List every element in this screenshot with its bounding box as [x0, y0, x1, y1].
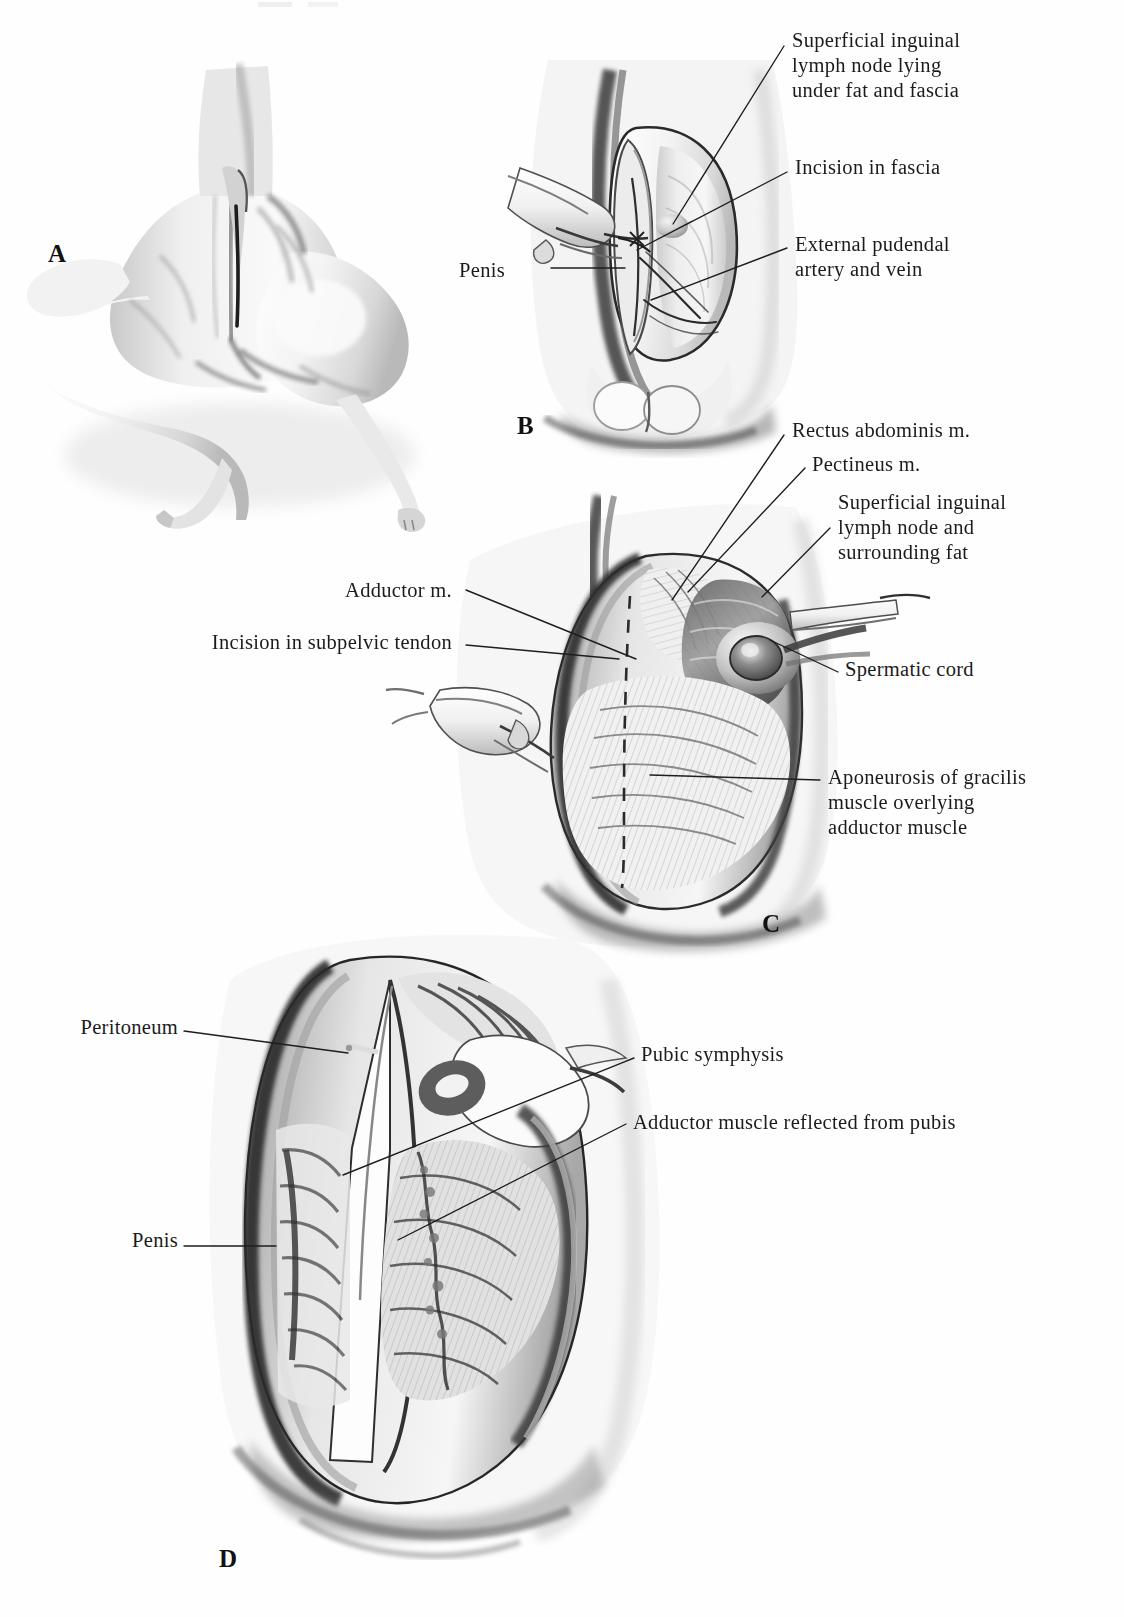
label-line: lymph node lying [792, 53, 960, 78]
label-line: Peritoneum [80, 1015, 178, 1040]
label-adductor-m: Adductor m. [345, 578, 452, 603]
label-line: surrounding fat [838, 540, 1006, 565]
label-peritoneum: Peritoneum [80, 1015, 178, 1040]
label-line: lymph node and [838, 515, 1006, 540]
label-pubic-symphysis: Pubic symphysis [641, 1042, 784, 1067]
panel-letter-b: B [517, 412, 534, 440]
panel-letter-a: A [48, 240, 66, 268]
label-line: Aponeurosis of gracilis [828, 765, 1026, 790]
label-line: External pudendal [795, 232, 950, 257]
panel-letter-d: D [219, 1545, 237, 1573]
label-line: artery and vein [795, 257, 950, 282]
label-adductor-muscle-reflected-from-pubis: Adductor muscle reflected from pubis [633, 1110, 956, 1135]
label-line: Superficial inguinal [792, 28, 960, 53]
scan-edge-marks [258, 2, 338, 7]
label-aponeurosis-of-gracilis: Aponeurosis of gracilismuscle overlyinga… [828, 765, 1026, 840]
label-line: Pectineus m. [812, 452, 920, 477]
label-line: adductor muscle [828, 815, 1026, 840]
label-line: Incision in fascia [795, 155, 940, 180]
panel-letter-c: C [762, 910, 780, 938]
panel-a-illustration [27, 64, 425, 532]
figure-page: Superficial inguinallymph node lyingunde… [0, 0, 1124, 1617]
planned-incision-line [236, 206, 238, 326]
label-external-pudendal-artery-and-vein: External pudendalartery and vein [795, 232, 950, 282]
label-incision-in-subpelvic-tendon: Incision in subpelvic tendon [212, 630, 452, 655]
label-line: Adductor muscle reflected from pubis [633, 1110, 956, 1135]
label-pectineus-m: Pectineus m. [812, 452, 920, 477]
label-line: muscle overlying [828, 790, 1026, 815]
label-line: Rectus abdominis m. [792, 418, 970, 443]
label-line: Penis [132, 1228, 178, 1253]
label-rectus-abdominis-m: Rectus abdominis m. [792, 418, 970, 443]
label-spermatic-cord: Spermatic cord [845, 657, 974, 682]
label-penis: Penis [132, 1228, 178, 1253]
label-line: Superficial inguinal [838, 490, 1006, 515]
label-line: under fat and fascia [792, 78, 960, 103]
label-penis: Penis [459, 258, 505, 283]
label-line: Spermatic cord [845, 657, 974, 682]
label-incision-in-fascia: Incision in fascia [795, 155, 940, 180]
panel-b-illustration [508, 60, 797, 453]
panel-d-illustration [210, 935, 660, 1556]
label-superficial-inguinal-lymph-node-and-fat: Superficial inguinallymph node andsurrou… [838, 490, 1006, 565]
label-line: Penis [459, 258, 505, 283]
label-line: Adductor m. [345, 578, 452, 603]
label-line: Pubic symphysis [641, 1042, 784, 1067]
label-line: Incision in subpelvic tendon [212, 630, 452, 655]
label-superficial-inguinal-lymph-node: Superficial inguinallymph node lyingunde… [792, 28, 960, 103]
